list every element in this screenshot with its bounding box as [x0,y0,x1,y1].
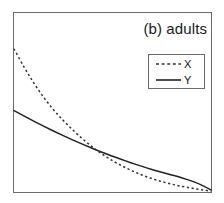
plot-frame [13,12,212,193]
figure-panel: (b) adults X Y [0,0,224,203]
legend-swatch-solid-line [155,75,182,85]
chart-legend: X Y [148,54,205,89]
legend-swatch-dashed-line [155,59,182,69]
legend-entry-x: X [149,56,204,72]
legend-entry-y: Y [149,72,204,88]
panel-title: (b) adults [143,20,207,37]
legend-label-y: Y [184,75,191,86]
legend-label-x: X [184,59,191,70]
